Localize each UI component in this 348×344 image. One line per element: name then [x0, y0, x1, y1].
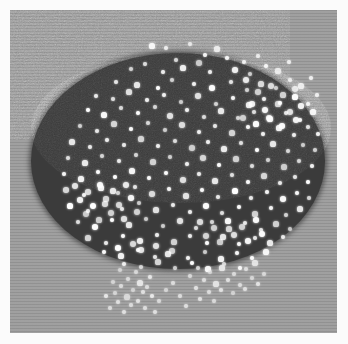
bright-speck [232, 272, 236, 276]
bright-speck [306, 102, 311, 107]
bright-speck [116, 300, 121, 305]
disc-grain-texture [31, 53, 331, 203]
bright-speck [129, 303, 133, 307]
bright-speck [298, 83, 303, 88]
bright-speck [264, 64, 268, 68]
bright-speck [213, 281, 218, 286]
figure-root: Noisy grayscale scan showing a large dar… [0, 0, 348, 344]
bright-speck [198, 297, 202, 301]
bright-speck [188, 42, 193, 47]
bright-speck [252, 260, 257, 265]
bright-speck [188, 274, 192, 278]
bright-speck [164, 288, 168, 292]
bright-speck [202, 278, 206, 282]
bright-speck [262, 272, 267, 277]
bright-speck [238, 266, 242, 270]
bright-speck [263, 249, 268, 254]
bright-speck [119, 284, 123, 288]
bright-speck [108, 306, 112, 310]
bright-speck [287, 60, 291, 64]
bright-speck [309, 76, 313, 80]
bright-speck [145, 285, 149, 289]
bright-speck [256, 54, 260, 58]
bright-speck [212, 299, 216, 303]
bright-speck [226, 278, 230, 282]
bright-speck [214, 46, 219, 51]
bright-speck [243, 287, 248, 292]
bright-speck [157, 299, 161, 303]
bright-speck [122, 310, 127, 315]
bright-speck [288, 78, 292, 82]
bright-speck [315, 93, 319, 97]
bright-speck [205, 266, 210, 271]
bright-speck [122, 262, 127, 267]
bright-speck [126, 277, 130, 281]
bright-speck [150, 294, 154, 298]
bright-speck [124, 294, 129, 299]
dark-elliptical-disc [31, 53, 325, 269]
bright-speck [250, 256, 254, 260]
bright-speck [219, 288, 223, 292]
bright-speck [310, 109, 315, 114]
bright-speck [244, 267, 249, 272]
bright-speck [292, 86, 298, 92]
bright-speck [207, 290, 212, 295]
bright-speck [131, 288, 136, 293]
bright-speck [164, 46, 168, 50]
bright-speck [208, 270, 212, 274]
bright-speck [143, 306, 147, 310]
bright-speck [171, 281, 175, 285]
bright-speck [256, 282, 260, 286]
scanned-image-field [10, 10, 337, 333]
bright-speck [137, 280, 142, 285]
bright-speck [136, 299, 140, 303]
bright-speck [219, 265, 224, 270]
bright-speck [148, 275, 153, 280]
bright-speck [275, 68, 280, 73]
bright-speck [111, 280, 115, 284]
bright-speck [194, 286, 198, 290]
bright-speck [104, 294, 108, 298]
bright-speck [178, 294, 182, 298]
bright-speck [149, 43, 154, 48]
bright-speck [134, 270, 139, 275]
bright-speck [184, 304, 188, 308]
bright-speck [113, 291, 117, 295]
bright-speck [250, 276, 254, 280]
bright-speck [118, 268, 123, 273]
bright-speck [153, 310, 157, 314]
bright-speck [231, 291, 235, 295]
bright-speck [141, 290, 145, 294]
bright-speck [238, 283, 243, 288]
